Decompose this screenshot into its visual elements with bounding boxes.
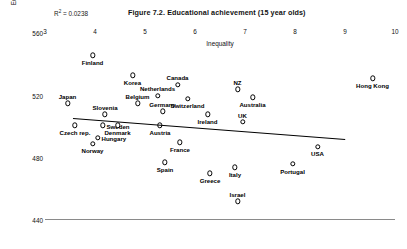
data-point bbox=[235, 199, 240, 204]
data-point bbox=[100, 122, 105, 127]
data-point-label: NZ bbox=[233, 79, 241, 86]
data-point-label: Italy bbox=[229, 171, 241, 178]
data-point-label: Netherlands bbox=[140, 85, 175, 92]
data-point-label: UK bbox=[238, 112, 247, 119]
x-tick-label: 6 bbox=[193, 28, 197, 35]
data-point bbox=[162, 160, 167, 165]
data-point bbox=[205, 112, 210, 117]
data-point bbox=[72, 122, 77, 127]
y-tick-label: 520 bbox=[21, 92, 43, 99]
data-point-label: Norway bbox=[81, 147, 103, 154]
data-point-label: Finland bbox=[82, 59, 104, 66]
data-point bbox=[207, 171, 212, 176]
data-point bbox=[90, 52, 95, 57]
data-point bbox=[232, 164, 237, 169]
data-point bbox=[160, 108, 165, 113]
data-point bbox=[177, 140, 182, 145]
y-tick-label: 560 bbox=[21, 30, 43, 37]
x-tick-label: 8 bbox=[293, 28, 297, 35]
data-point-label: Germany bbox=[149, 101, 175, 108]
data-point-label: Australia bbox=[239, 101, 265, 108]
data-point bbox=[240, 119, 245, 124]
data-point bbox=[185, 96, 190, 101]
data-point-label: Ireland bbox=[198, 118, 218, 125]
data-point bbox=[315, 144, 320, 149]
x-axis-title: Inequality bbox=[45, 40, 395, 47]
r-squared-annotation: R2 = 0.0238 bbox=[54, 9, 88, 17]
data-point bbox=[135, 101, 140, 106]
x-tick-label: 5 bbox=[143, 28, 147, 35]
data-point-label: Austria bbox=[150, 129, 171, 136]
data-point-label: USA bbox=[311, 150, 324, 157]
x-tick-label: 10 bbox=[391, 28, 398, 35]
x-tick-label: 9 bbox=[343, 28, 347, 35]
data-point bbox=[370, 76, 375, 81]
data-point-label: France bbox=[170, 146, 190, 153]
data-point-label: Japan bbox=[59, 93, 77, 100]
data-point-label: Slovenia bbox=[92, 104, 117, 111]
data-point-label: Portugal bbox=[280, 168, 305, 175]
data-point-label: Czech rep. bbox=[60, 129, 91, 136]
x-tick-label: 4 bbox=[93, 28, 97, 35]
x-tick-label: 7 bbox=[243, 28, 247, 35]
x-tick-label: 3 bbox=[43, 28, 47, 35]
data-point bbox=[155, 93, 160, 98]
data-point-label: Hungary bbox=[102, 135, 127, 142]
data-point bbox=[250, 94, 255, 99]
data-point bbox=[102, 112, 107, 117]
r-squared-value: = 0.0238 bbox=[61, 10, 88, 17]
data-point bbox=[65, 101, 70, 106]
data-point-label: Greece bbox=[200, 177, 221, 184]
y-tick-label: 480 bbox=[21, 154, 43, 161]
data-point bbox=[90, 141, 95, 146]
y-tick-label: 440 bbox=[21, 217, 43, 224]
data-point-label: Belgium bbox=[125, 93, 149, 100]
data-point-label: Israel bbox=[230, 191, 246, 198]
chart-container: R2 = 0.0238 Figure 7.2. Educational achi… bbox=[0, 0, 407, 249]
data-point-label: Spain bbox=[157, 166, 174, 173]
data-point bbox=[290, 161, 295, 166]
y-axis-title: Educational achievement (15 year olds) bbox=[10, 0, 17, 36]
data-point-label: Canada bbox=[166, 74, 188, 81]
data-point bbox=[95, 135, 100, 140]
x-axis-line bbox=[45, 219, 395, 220]
data-point bbox=[235, 87, 240, 92]
data-point-label: Korea bbox=[124, 79, 141, 86]
data-point bbox=[175, 82, 180, 87]
data-point-label: Hong Kong bbox=[356, 82, 389, 89]
plot-area: Educational achievement (15 year olds) 5… bbox=[45, 24, 395, 220]
figure-title: Figure 7.2. Educational achievement (15 … bbox=[128, 8, 306, 17]
data-point bbox=[130, 73, 135, 78]
